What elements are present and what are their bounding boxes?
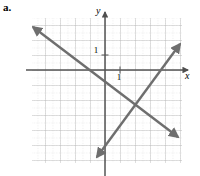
y-unit-label: 1 (94, 45, 99, 55)
grid-major (32, 18, 182, 163)
coordinate-graph: y x 1 1 (0, 0, 200, 176)
x-axis-label: x (184, 70, 190, 81)
x-unit-label: 1 (117, 72, 122, 82)
y-axis-label: y (95, 5, 101, 16)
